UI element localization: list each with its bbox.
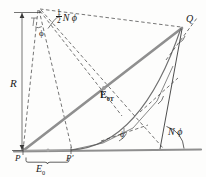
dashed-tangent-at-Q xyxy=(166,18,197,60)
arc-chord-2 xyxy=(103,128,133,143)
label-n-phi-text: N ϕ xyxy=(63,12,77,23)
figure-container: R ϕ 12N ϕ Q E0T N ϕ ϕ P P′ E0 xyxy=(0,0,206,177)
dimension-arrow-top xyxy=(20,13,25,18)
label-phi-apex: ϕ xyxy=(39,29,44,38)
label-radius-R: R xyxy=(10,78,17,89)
fraction-one-half: 12 xyxy=(56,9,62,25)
label-resultant-field-E0T: E0T xyxy=(100,90,114,102)
label-point-P-prime: P′ xyxy=(66,154,73,163)
arc-chord-1 xyxy=(71,143,103,150)
label-E0T-subscript: 0T xyxy=(107,95,114,102)
label-element-field-E0: E0 xyxy=(36,164,45,176)
label-n-phi-angle: N ϕ xyxy=(168,127,182,137)
label-half-n-phi: 12N ϕ xyxy=(56,9,77,25)
dashed-apex-radius-right xyxy=(41,10,163,148)
dashed-apex-to-P xyxy=(23,10,38,151)
fraction-denominator: 2 xyxy=(56,16,62,24)
label-phi-on-curve: ϕ xyxy=(120,131,124,139)
label-point-P: P xyxy=(15,154,21,163)
arc-chord-4 xyxy=(157,66,173,101)
label-point-Q: Q xyxy=(186,14,193,24)
e0-midpoint-dot xyxy=(47,149,50,152)
fraction-numerator: 1 xyxy=(56,9,62,16)
label-E0-subscript: 0 xyxy=(42,169,45,176)
brace-E0 xyxy=(26,158,69,165)
label-E0T-base: E xyxy=(100,89,107,100)
